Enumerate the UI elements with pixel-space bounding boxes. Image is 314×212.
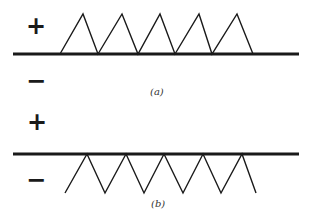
plus-sign-b: + <box>27 108 47 136</box>
triangle-wave-a <box>60 14 253 54</box>
caption-b: (b) <box>151 198 165 209</box>
plus-sign-a: + <box>26 12 46 40</box>
panel-b: + − (b) <box>13 108 299 209</box>
minus-sign-a: − <box>26 67 46 95</box>
caption-a: (a) <box>150 86 164 97</box>
diagram: + − (a) + − (b) <box>0 0 314 212</box>
panel-a: + − (a) <box>13 12 299 97</box>
triangle-wave-b <box>65 154 256 193</box>
minus-sign-b: − <box>26 166 46 194</box>
